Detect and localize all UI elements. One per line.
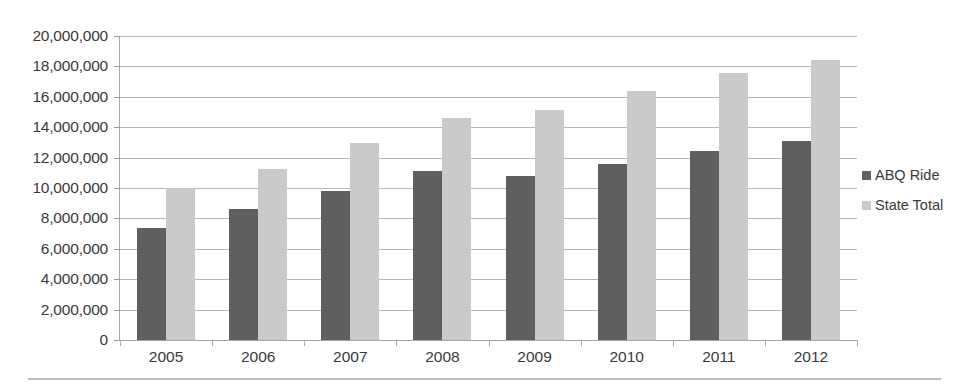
- y-axis-tick-mark: [114, 127, 120, 128]
- bar-group: [229, 36, 287, 340]
- bar-group: [413, 36, 471, 340]
- y-axis-tick-label: 0: [100, 331, 108, 349]
- y-axis-tick-mark: [114, 188, 120, 189]
- plot-area: [120, 36, 857, 340]
- bar-group: [137, 36, 195, 340]
- y-axis-tick-label: 4,000,000: [41, 270, 108, 288]
- bar-state-total-2008[interactable]: [442, 118, 471, 340]
- legend-swatch-icon: [862, 201, 871, 210]
- y-axis-tick-label: 10,000,000: [32, 179, 108, 197]
- bar-abq-ride-2009[interactable]: [506, 176, 535, 340]
- y-axis-tick-label: 20,000,000: [32, 27, 108, 45]
- x-axis-tick-label: 2006: [241, 348, 275, 366]
- y-axis-tick-label: 16,000,000: [32, 88, 108, 106]
- x-axis-tick-label: 2012: [794, 348, 828, 366]
- bar-state-total-2010[interactable]: [627, 91, 656, 340]
- y-axis-tick-mark: [114, 36, 120, 37]
- legend-label: ABQ Ride: [875, 167, 939, 183]
- y-axis-tick-labels: 20,000,00018,000,00016,000,00014,000,000…: [0, 0, 116, 392]
- x-axis-tick-label: 2009: [517, 348, 551, 366]
- y-axis-tick-mark: [114, 310, 120, 311]
- legend-swatch-icon: [862, 171, 871, 180]
- x-axis-tick-label: 2005: [149, 348, 183, 366]
- bottom-divider: [28, 378, 941, 380]
- y-axis-tick-mark: [114, 218, 120, 219]
- y-axis-tick-mark: [114, 66, 120, 67]
- x-axis-tick-label: 2011: [702, 348, 735, 366]
- legend-item-abq-ride[interactable]: ABQ Ride: [862, 160, 966, 190]
- y-axis-tick-label: 8,000,000: [41, 209, 108, 227]
- y-axis-tick-label: 14,000,000: [32, 118, 108, 136]
- bar-abq-ride-2006[interactable]: [229, 209, 258, 340]
- bar-abq-ride-2008[interactable]: [413, 171, 442, 340]
- x-axis-tick-label: 2007: [333, 348, 367, 366]
- bar-abq-ride-2012[interactable]: [782, 141, 811, 340]
- bar-abq-ride-2011[interactable]: [690, 151, 719, 340]
- chart-legend: ABQ RideState Total: [862, 160, 966, 220]
- bar-abq-ride-2007[interactable]: [321, 191, 350, 340]
- bar-abq-ride-2005[interactable]: [137, 228, 166, 340]
- bar-group: [598, 36, 656, 340]
- bar-group: [506, 36, 564, 340]
- x-axis-tick-mark: [857, 340, 858, 346]
- legend-item-state-total[interactable]: State Total: [862, 190, 966, 220]
- bar-state-total-2005[interactable]: [166, 188, 195, 340]
- bar-abq-ride-2010[interactable]: [598, 164, 627, 340]
- x-axis-tick-labels: 20052006200720082009201020112012: [120, 344, 857, 374]
- y-axis-tick-mark: [114, 249, 120, 250]
- x-axis-tick-label: 2010: [609, 348, 643, 366]
- bar-group: [690, 36, 748, 340]
- y-axis-tick-mark: [114, 279, 120, 280]
- bar-state-total-2012[interactable]: [811, 60, 840, 340]
- y-axis-tick-label: 2,000,000: [41, 301, 108, 319]
- y-axis-tick-mark: [114, 158, 120, 159]
- y-axis-tick-mark: [114, 97, 120, 98]
- bar-group: [321, 36, 379, 340]
- bar-group: [782, 36, 840, 340]
- x-axis-tick-label: 2008: [425, 348, 459, 366]
- y-axis-tick-label: 6,000,000: [41, 240, 108, 258]
- bar-state-total-2006[interactable]: [258, 169, 287, 340]
- bar-state-total-2009[interactable]: [535, 110, 564, 340]
- bar-state-total-2007[interactable]: [350, 143, 379, 340]
- y-axis-tick-label: 18,000,000: [32, 57, 108, 75]
- legend-label: State Total: [875, 197, 943, 213]
- y-axis-tick-label: 12,000,000: [32, 149, 108, 167]
- bar-state-total-2011[interactable]: [719, 73, 748, 340]
- bar-chart: 20,000,00018,000,00016,000,00014,000,000…: [0, 0, 969, 392]
